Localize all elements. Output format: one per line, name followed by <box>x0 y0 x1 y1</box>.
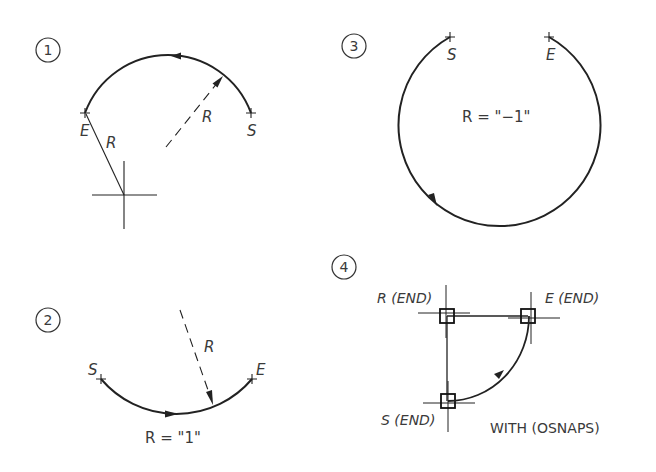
center-cross <box>92 161 157 229</box>
label-radius: R <box>204 338 214 356</box>
figure-2: 2 S E R R = "1" <box>36 308 266 447</box>
label-start: S <box>447 46 457 64</box>
radius-arrow-icon <box>206 390 213 405</box>
radius-arrow-icon <box>213 76 224 88</box>
dashed-radius-line <box>166 77 222 147</box>
direction-arrow-icon <box>165 411 178 418</box>
end-point-marker <box>544 32 554 42</box>
figure-4: 4 R (END) E (END) S (END) WITH (OSNAPS) <box>332 255 600 436</box>
label-radius-dashed: R <box>202 108 212 126</box>
label-e-end-text: E (END) <box>545 290 599 306</box>
direction-arrow-icon <box>428 193 437 206</box>
label-s-end-text: S (END) <box>381 412 435 428</box>
figure-number: 3 <box>350 38 359 54</box>
start-point-marker <box>445 32 455 42</box>
label-radius-solid: R <box>106 134 116 152</box>
label-end: E <box>546 46 556 64</box>
label-end: E <box>256 361 266 379</box>
figure-number: 4 <box>340 259 349 275</box>
arc <box>448 316 529 401</box>
radius-equation: R = "−1" <box>462 108 530 126</box>
label-s-end: S (END) <box>381 412 435 428</box>
radius-equation: R = "1" <box>145 429 201 447</box>
figure-number: 1 <box>44 42 53 58</box>
start-point-marker <box>246 108 256 118</box>
figure-number: 2 <box>44 312 53 328</box>
direction-arrow-icon <box>171 53 181 60</box>
osnap-note: WITH (OSNAPS) <box>490 420 600 436</box>
label-r-end: R (END) <box>377 290 432 306</box>
arc-diagram: 1 E S R R 3 S E R = "−1" 2 <box>0 0 656 472</box>
label-e-end: E (END) <box>545 290 599 306</box>
figure-3: 3 S E R = "−1" <box>342 32 600 226</box>
radius-line <box>86 114 124 195</box>
label-start: S <box>88 361 98 379</box>
arc <box>398 37 600 226</box>
label-start: S <box>247 122 257 140</box>
arc <box>101 379 252 414</box>
end-point-marker <box>80 108 90 118</box>
arc <box>85 55 251 113</box>
label-end: E <box>80 122 90 140</box>
figure-1: 1 E S R R <box>36 38 257 229</box>
label-r-end-text: R (END) <box>377 290 432 306</box>
